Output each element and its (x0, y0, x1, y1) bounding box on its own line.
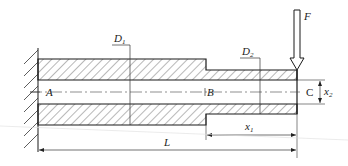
svg-text:x1: x1 (244, 120, 253, 134)
svg-text:D2: D2 (241, 45, 254, 59)
l-dimension: L (39, 136, 296, 150)
svg-text:D1: D1 (113, 32, 125, 46)
shaft-diagram: A B C D1 D2 F x2 x1 L (0, 0, 348, 166)
svg-text:L: L (163, 136, 170, 148)
x2-dimension: x2 (297, 80, 333, 104)
point-c-label: C (306, 86, 313, 98)
force-label: F (303, 10, 311, 22)
svg-text:x2: x2 (323, 85, 333, 99)
point-b-label: B (207, 86, 214, 98)
fixed-wall-support (24, 48, 38, 152)
force-arrow: F (290, 10, 311, 70)
point-a-label: A (45, 86, 53, 98)
